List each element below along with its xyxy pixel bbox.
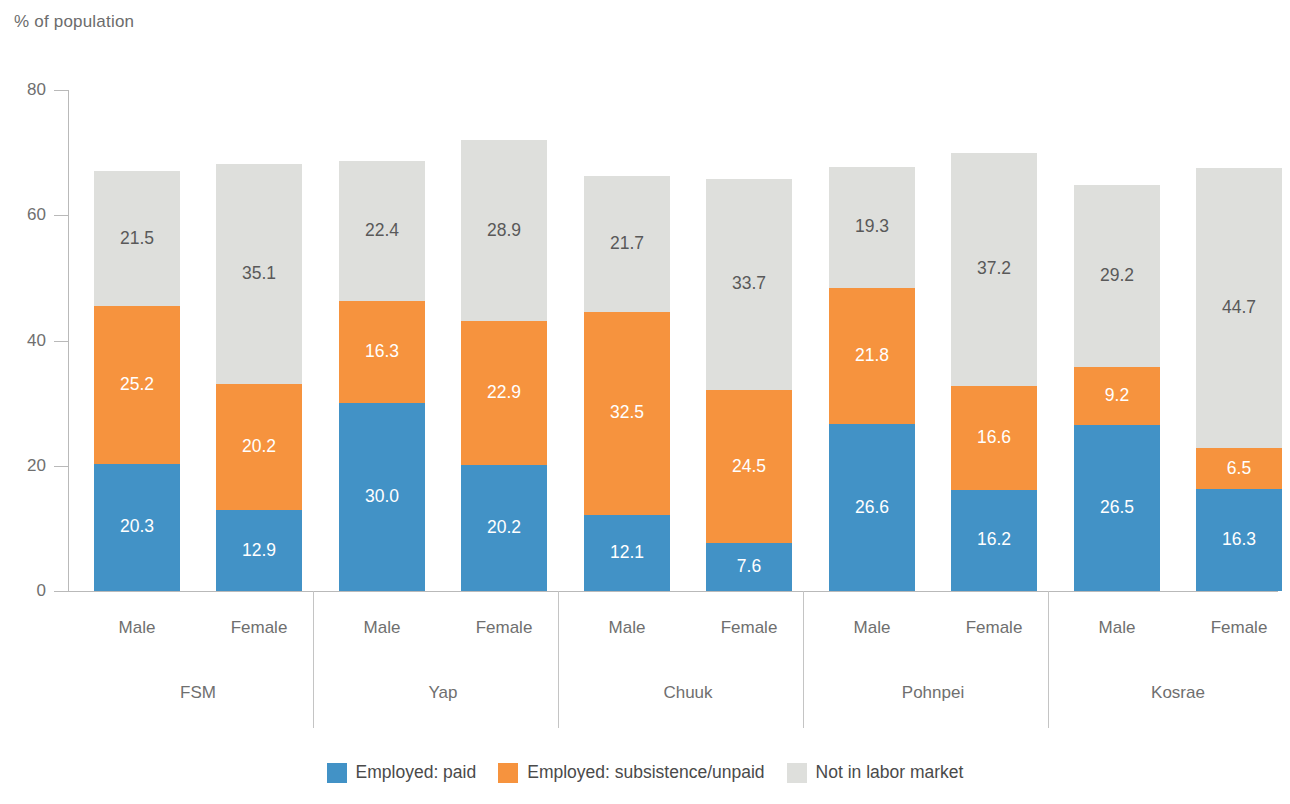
bar-segment-notinlabor: 28.9 [461,140,547,321]
bar-value-label: 21.7 [584,233,670,254]
bar-segment-unpaid: 24.5 [706,390,792,543]
y-tick-label-40: 40 [0,331,46,351]
bar-segment-paid: 20.2 [461,465,547,592]
bar-segment-paid: 7.6 [706,543,792,591]
group-divider [313,591,314,728]
legend-swatch-icon [327,763,347,783]
group-divider [1048,591,1049,728]
bar-value-label: 16.3 [339,341,425,362]
bar-segment-paid: 26.6 [829,424,915,591]
bar-value-label: 16.3 [1196,529,1282,550]
bar-value-label: 6.5 [1196,458,1282,479]
bar-segment-notinlabor: 21.7 [584,176,670,312]
bar-segment-notinlabor: 37.2 [951,153,1037,386]
legend-swatch-icon [498,763,518,783]
x-tick-label-fsm-female: Female [231,618,288,638]
bar-segment-paid: 26.5 [1074,425,1160,591]
bar-segment-unpaid: 6.5 [1196,448,1282,489]
y-tick-20 [54,466,68,467]
x-tick-label-chuuk-male: Male [609,618,646,638]
bar-kosrae-male: 29.29.226.5 [1074,185,1160,591]
bar-segment-notinlabor: 44.7 [1196,168,1282,448]
bar-value-label: 28.9 [461,220,547,241]
group-label-chuuk: Chuuk [663,683,712,703]
group-divider [558,591,559,728]
bar-segment-paid: 16.3 [1196,489,1282,591]
bar-value-label: 44.7 [1196,297,1282,318]
group-label-fsm: FSM [180,683,216,703]
bar-value-label: 16.2 [951,529,1037,550]
bar-value-label: 30.0 [339,486,425,507]
bar-segment-unpaid: 32.5 [584,312,670,516]
bar-fsm-male: 21.525.220.3 [94,171,180,591]
bar-value-label: 33.7 [706,273,792,294]
x-tick-label-kosrae-male: Male [1099,618,1136,638]
bar-value-label: 12.1 [584,542,670,563]
bar-segment-notinlabor: 35.1 [216,164,302,384]
bar-segment-paid: 16.2 [951,490,1037,591]
bar-value-label: 21.5 [94,228,180,249]
bar-value-label: 29.2 [1074,265,1160,286]
category-axis: MaleFemaleMaleFemaleMaleFemaleMaleFemale… [68,591,1278,728]
legend-label: Employed: subsistence/unpaid [527,762,764,783]
bar-value-label: 19.3 [829,216,915,237]
x-tick-label-fsm-male: Male [119,618,156,638]
bar-chuuk-male: 21.732.512.1 [584,176,670,591]
y-tick-60 [54,215,68,216]
bar-segment-paid: 20.3 [94,464,180,591]
bar-segment-notinlabor: 33.7 [706,179,792,390]
bar-segment-notinlabor: 22.4 [339,161,425,301]
legend-label: Employed: paid [356,762,477,783]
bar-segment-unpaid: 16.6 [951,386,1037,490]
bar-value-label: 21.8 [829,345,915,366]
group-label-pohnpei: Pohnpei [902,683,964,703]
bar-value-label: 26.6 [829,497,915,518]
legend-item-1[interactable]: Employed: subsistence/unpaid [498,762,764,783]
bar-chuuk-female: 33.724.57.6 [706,179,792,591]
bar-segment-notinlabor: 29.2 [1074,185,1160,368]
x-tick-label-chuuk-female: Female [721,618,778,638]
bar-value-label: 32.5 [584,402,670,423]
x-tick-label-yap-male: Male [364,618,401,638]
bar-segment-unpaid: 21.8 [829,288,915,425]
y-tick-label-20: 20 [0,456,46,476]
bar-pohnpei-female: 37.216.616.2 [951,153,1037,591]
x-tick-label-kosrae-female: Female [1211,618,1268,638]
bar-segment-paid: 12.9 [216,510,302,591]
legend-swatch-icon [787,763,807,783]
bar-kosrae-female: 44.76.516.3 [1196,168,1282,591]
x-tick-label-pohnpei-male: Male [854,618,891,638]
bar-value-label: 7.6 [706,556,792,577]
bar-segment-paid: 30.0 [339,403,425,591]
bar-segment-notinlabor: 21.5 [94,171,180,306]
bar-value-label: 25.2 [94,374,180,395]
bar-value-label: 9.2 [1074,385,1160,406]
y-axis-title: % of population [14,12,134,32]
bar-segment-unpaid: 22.9 [461,321,547,464]
x-tick-label-pohnpei-female: Female [966,618,1023,638]
y-tick-0 [54,591,68,592]
legend-item-2[interactable]: Not in labor market [787,762,964,783]
y-tick-label-60: 60 [0,205,46,225]
plot-area: 806040200 21.525.220.335.120.212.922.416… [68,90,1278,591]
y-tick-label-80: 80 [0,80,46,100]
bar-value-label: 12.9 [216,540,302,561]
x-tick-label-yap-female: Female [476,618,533,638]
y-tick-label-0: 0 [0,581,46,601]
group-label-kosrae: Kosrae [1151,683,1205,703]
bar-segment-unpaid: 16.3 [339,301,425,403]
chart-canvas: % of population 806040200 21.525.220.335… [0,0,1290,804]
y-tick-40 [54,341,68,342]
bar-value-label: 26.5 [1074,497,1160,518]
chart-legend: Employed: paidEmployed: subsistence/unpa… [0,762,1290,783]
bar-pohnpei-male: 19.321.826.6 [829,167,915,591]
y-tick-80 [54,90,68,91]
legend-item-0[interactable]: Employed: paid [327,762,477,783]
bar-value-label: 22.9 [461,382,547,403]
bar-segment-unpaid: 20.2 [216,384,302,511]
bar-yap-female: 28.922.920.2 [461,140,547,591]
bar-value-label: 20.2 [461,517,547,538]
bar-value-label: 16.6 [951,427,1037,448]
bar-value-label: 37.2 [951,258,1037,279]
bar-fsm-female: 35.120.212.9 [216,164,302,591]
